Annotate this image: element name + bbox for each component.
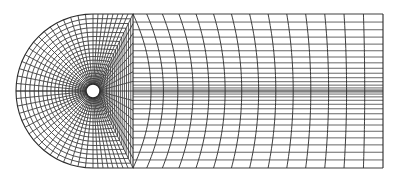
- hole-circle: [86, 84, 100, 98]
- mesh-canvas: [0, 0, 401, 184]
